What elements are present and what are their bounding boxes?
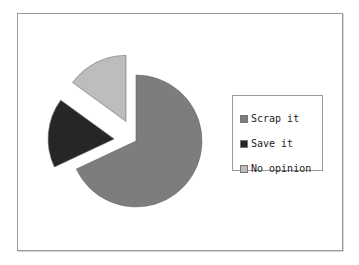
legend-swatch-icon <box>240 140 248 148</box>
legend-item-no-opinion: No opinion <box>240 156 322 181</box>
legend-item-save-it: Save it <box>240 131 322 156</box>
chart-legend: Scrap it Save it No opinion <box>232 95 323 171</box>
legend-swatch-icon <box>240 115 248 123</box>
legend-item-scrap-it: Scrap it <box>240 106 322 131</box>
pie-slice-no-opinion <box>73 55 126 121</box>
legend-swatch-icon <box>240 165 248 173</box>
legend-label: Scrap it <box>251 114 299 124</box>
legend-label: Save it <box>251 139 293 149</box>
legend-label: No opinion <box>251 164 311 174</box>
